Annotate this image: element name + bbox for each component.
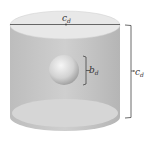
- cylinder-bottom: [12, 99, 118, 127]
- cylinder-sphere-diagram: cd bd cd: [0, 0, 153, 142]
- cylinder-height-bracket: [125, 25, 134, 118]
- cylinder-height-label: cd: [135, 67, 144, 78]
- sphere: [49, 55, 79, 85]
